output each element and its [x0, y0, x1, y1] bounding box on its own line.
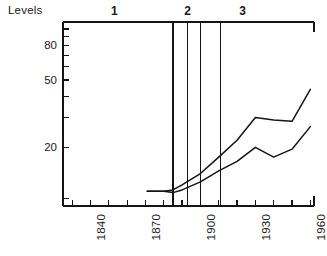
x-tick-label: 1960 — [315, 214, 327, 240]
period-label-2: 2 — [184, 4, 191, 18]
period-label-1: 1 — [111, 4, 118, 18]
series-line — [147, 127, 310, 193]
x-axis-ticks — [72, 200, 310, 206]
x-tick-label: 1840 — [95, 214, 107, 240]
y-axis-ticks — [63, 29, 69, 198]
plot-frame — [63, 22, 314, 206]
x-tick-label: 1930 — [260, 214, 272, 240]
plot-area — [0, 0, 327, 256]
y-tick-label: 80 — [26, 39, 57, 51]
data-series-lines — [147, 89, 310, 192]
y-tick-label: 50 — [26, 74, 57, 86]
period-divider-lines — [173, 22, 221, 206]
chart-figure: Levels 1 2 3 20 50 80 1840 1870 1900 193… — [0, 0, 327, 256]
period-label-3: 3 — [239, 4, 246, 18]
y-tick-label: 20 — [26, 141, 57, 153]
x-tick-label: 1900 — [205, 214, 217, 240]
series-line — [147, 89, 310, 191]
x-tick-label: 1870 — [150, 214, 162, 240]
axis-title-levels: Levels — [8, 4, 42, 16]
